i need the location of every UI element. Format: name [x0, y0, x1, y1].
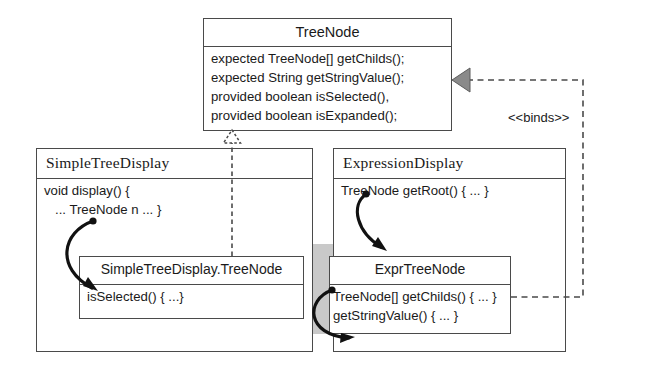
class-members-simpletreedisplay-treenode: isSelected() { ...} [80, 285, 303, 309]
member-row: expected String getStringValue(); [211, 68, 445, 87]
class-box-simpletreedisplay-treenode[interactable]: SimpleTreeDisplay.TreeNode isSelected() … [79, 256, 304, 319]
class-title-expressiondisplay: ExpressionDisplay [334, 149, 565, 179]
member-row: provided boolean isExpanded(); [211, 106, 445, 125]
solid-triangle-arrowhead [452, 68, 470, 92]
class-members-expressiondisplay: TreeNode getRoot() { ... } [334, 179, 565, 203]
class-members-exprtreenode: TreeNode[] getChilds() { ... } getString… [330, 285, 510, 328]
member-row: provided boolean isSelected(), [211, 87, 445, 106]
class-members-treenode: expected TreeNode[] getChilds(); expecte… [204, 47, 451, 128]
class-title-simpletreedisplay-treenode: SimpleTreeDisplay.TreeNode [80, 257, 303, 285]
hollow-triangle-arrowhead [224, 130, 241, 143]
class-box-exprtreenode[interactable]: ExprTreeNode TreeNode[] getChilds() { ..… [329, 256, 511, 334]
class-title-simpletreedisplay: SimpleTreeDisplay [37, 149, 312, 179]
member-row: isSelected() { ...} [87, 287, 297, 306]
class-title-exprtreenode: ExprTreeNode [330, 257, 510, 285]
class-title-treenode: TreeNode [204, 19, 451, 47]
diagram-canvas: TreeNode expected TreeNode[] getChilds()… [0, 0, 648, 385]
member-row: getStringValue() { ... } [333, 306, 504, 325]
class-box-treenode[interactable]: TreeNode expected TreeNode[] getChilds()… [203, 18, 452, 131]
member-row: void display() { [44, 181, 306, 200]
binds-stereotype-label: <<binds>> [508, 110, 569, 125]
member-row: TreeNode getRoot() { ... } [341, 181, 559, 200]
member-row: TreeNode[] getChilds() { ... } [333, 287, 504, 306]
member-row: ... TreeNode n ... } [44, 200, 306, 219]
class-members-simpletreedisplay: void display() { ... TreeNode n ... } [37, 179, 312, 222]
member-row: expected TreeNode[] getChilds(); [211, 49, 445, 68]
class-box-simpletreedisplay[interactable]: SimpleTreeDisplay void display() { ... T… [36, 148, 313, 352]
